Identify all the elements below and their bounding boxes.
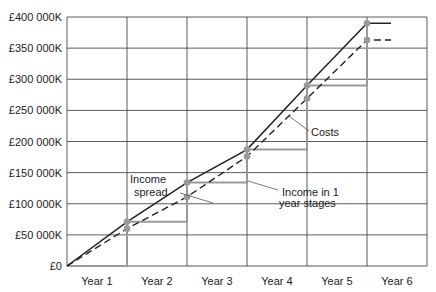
income-spread-line xyxy=(67,23,391,266)
income-costs-chart: £0£50 000K£100 000K£150 000K£200 000K£25… xyxy=(0,0,436,292)
income-in-1-year-stages-line xyxy=(67,23,367,266)
annotation-income-spread: spread xyxy=(134,186,168,198)
y-tick-label: £100 000K xyxy=(9,198,63,210)
annotation-costs: Costs xyxy=(311,126,340,138)
annotation-income-spread: Income xyxy=(130,173,166,185)
data-marker xyxy=(184,179,191,186)
data-marker xyxy=(244,146,251,153)
series-group xyxy=(67,23,391,266)
x-tick-label: Year 2 xyxy=(141,275,172,287)
grid xyxy=(67,17,427,266)
y-tick-label: £250 000K xyxy=(9,104,63,116)
x-tick-label: Year 5 xyxy=(321,275,352,287)
data-marker xyxy=(304,82,311,89)
x-tick-label: Year 3 xyxy=(201,275,232,287)
data-marker xyxy=(124,225,131,232)
y-tick-label: £400 000K xyxy=(9,11,63,23)
y-tick-label: £0 xyxy=(50,260,62,272)
y-tick-label: £50 000K xyxy=(15,229,63,241)
data-marker xyxy=(124,219,131,226)
x-axis-ticks: Year 1Year 2Year 3Year 4Year 5Year 6 xyxy=(81,275,412,287)
x-tick-label: Year 4 xyxy=(261,275,292,287)
y-tick-label: £300 000K xyxy=(9,73,63,85)
y-tick-label: £350 000K xyxy=(9,42,63,54)
data-marker xyxy=(364,20,371,27)
annotation-income-stages: year stages xyxy=(279,197,336,209)
annotations-group: IncomespreadIncome in 1year stagesCosts xyxy=(130,116,340,209)
y-tick-label: £150 000K xyxy=(9,167,63,179)
x-tick-label: Year 1 xyxy=(81,275,112,287)
y-axis-ticks: £0£50 000K£100 000K£150 000K£200 000K£25… xyxy=(9,11,63,272)
y-tick-label: £200 000K xyxy=(9,136,63,148)
costs-line xyxy=(67,40,391,266)
data-marker xyxy=(244,153,251,160)
data-marker xyxy=(364,37,371,44)
annotation-leader-line xyxy=(248,181,278,190)
data-marker xyxy=(304,95,311,102)
x-tick-label: Year 6 xyxy=(381,275,412,287)
